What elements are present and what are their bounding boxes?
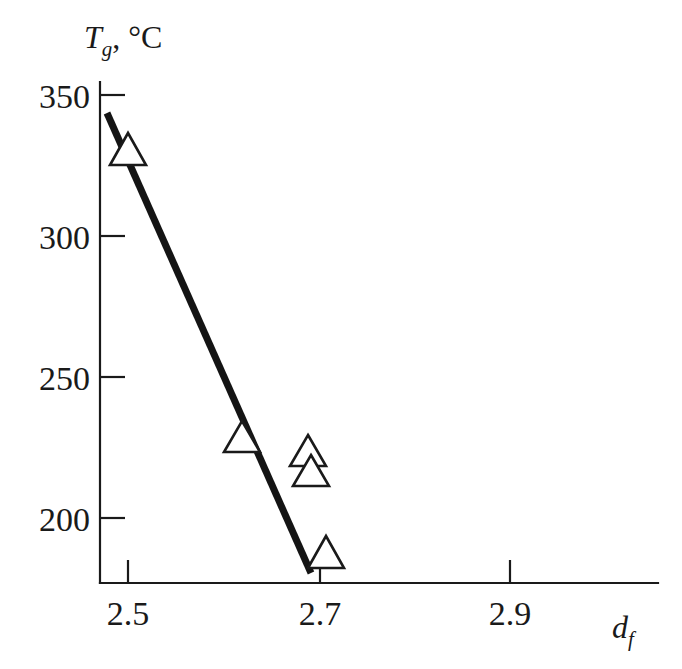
x-tick-label-2-5: 2.5 xyxy=(107,595,150,632)
y-tick-label-200: 200 xyxy=(39,501,90,538)
x-axis-title-subscript: f xyxy=(628,627,637,651)
y-axis-title-subscript: g xyxy=(102,37,113,61)
x-tick-label-2-7: 2.7 xyxy=(299,595,342,632)
x-tick-label-2-9: 2.9 xyxy=(489,595,532,632)
data-point-marker xyxy=(308,536,344,568)
trend-line xyxy=(107,113,311,573)
x-axis-title: df xyxy=(612,609,637,651)
y-tick-label-250: 250 xyxy=(39,360,90,397)
y-axis-title: Tg, °C xyxy=(84,19,162,61)
figure-container: Tg, °C 350 300 250 200 2.5 2.7 2.9 df xyxy=(0,0,682,669)
data-point-marker xyxy=(224,421,260,452)
y-tick-label-300: 300 xyxy=(39,219,90,256)
y-tick-label-350: 350 xyxy=(39,78,90,115)
scatter-plot-canvas: Tg, °C 350 300 250 200 2.5 2.7 2.9 df xyxy=(0,0,682,669)
x-axis-title-variable: d xyxy=(612,609,629,645)
y-axis-title-units: , °C xyxy=(112,19,162,55)
